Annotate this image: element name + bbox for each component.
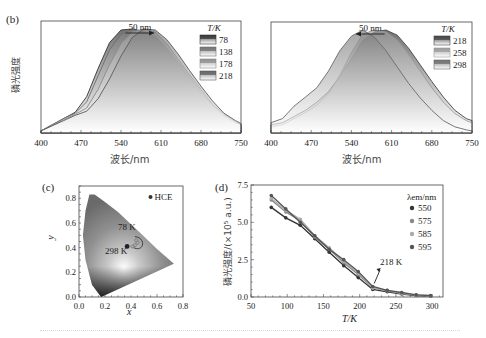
y-tick-label: 7.5: [237, 180, 248, 190]
c-x-axis-label: x: [127, 306, 131, 317]
data-point: [356, 270, 360, 274]
legend-label: 138: [219, 47, 233, 57]
data-point: [284, 207, 288, 211]
figure-canvas: 400470540610680750T/K7813817821850 nm 40…: [0, 0, 486, 338]
data-point: [342, 258, 346, 262]
legend-marker-icon: [410, 219, 414, 223]
x-tick-label: 400: [34, 138, 48, 148]
c-y-axis-label: y: [45, 235, 56, 239]
x-tick-label: 470: [304, 138, 318, 148]
legend-label: 178: [219, 59, 233, 69]
legend-label: 575: [418, 216, 432, 226]
panel-d-intensity: 501001502002503000.02.55.07.5λem/nm55057…: [237, 180, 443, 311]
legend-label: 78: [219, 35, 229, 45]
legend-label: 298: [453, 60, 467, 70]
panel-label-c: (c): [42, 181, 54, 193]
data-point: [269, 206, 273, 210]
x-tick-label: 540: [114, 138, 128, 148]
x-tick-label: 610: [154, 138, 168, 148]
x-tick-label: 150: [317, 301, 330, 311]
x-tick-label: 0.2: [100, 301, 111, 311]
x-tick-label: 680: [194, 138, 208, 148]
d-x-axis-label: T/K: [342, 313, 357, 324]
legend-label: 595: [418, 242, 432, 252]
y-tick-label: 0.8: [65, 193, 76, 203]
data-point: [313, 234, 317, 238]
x-tick-label: 250: [390, 301, 403, 311]
y-tick-label: 2.5: [237, 255, 248, 265]
x-tick-label: 610: [385, 138, 399, 148]
data-point: [371, 285, 375, 289]
y-tick-label: 5.0: [237, 217, 248, 227]
y-tick-label: 0.6: [65, 218, 76, 228]
x-tick-label: 50: [247, 301, 256, 311]
y-tick-label: 0.0: [65, 292, 76, 302]
panel-b-right: 400470540610680750T/K21825829850 nm: [264, 22, 479, 148]
data-point: [429, 294, 433, 298]
legend-label: 218: [453, 36, 467, 46]
y-tick-label: 0.0: [237, 292, 248, 302]
annotation-78K: 78 K: [118, 222, 136, 232]
data-point: [414, 293, 418, 297]
legend-title: λem/nm: [407, 192, 436, 202]
x-tick-label: 470: [74, 138, 88, 148]
legend-label: 585: [418, 229, 432, 239]
panel-label-b: (b): [6, 13, 19, 25]
panel-b-left: 400470540610680750T/K7813817821850 nm: [34, 21, 248, 148]
legend-marker-icon: [410, 245, 414, 249]
annotation-218K: 218 K: [380, 257, 403, 267]
hce-marker-icon: [149, 195, 153, 199]
x-tick-label: 0.0: [74, 301, 85, 311]
data-point: [385, 288, 389, 292]
panel-c-cie: 0.00.20.40.60.80.00.20.40.60.878 K298 KH…: [65, 186, 188, 311]
x-tick-label: 540: [345, 138, 359, 148]
data-point: [400, 291, 404, 295]
x-tick-label: 680: [425, 138, 439, 148]
b-left-x-axis-label: 波长/nm: [110, 151, 149, 166]
b-y-axis-label: 磷光强度: [9, 52, 22, 98]
legend-title: T/K: [207, 23, 222, 33]
y-tick-label: 0.4: [65, 243, 76, 253]
x-tick-label: 750: [465, 138, 479, 148]
x-tick-label: 0.8: [178, 301, 189, 311]
cropped-caption: [40, 330, 460, 332]
x-tick-label: 100: [281, 301, 294, 311]
annotation-298K: 298 K: [105, 246, 128, 256]
legend-label: 258: [453, 48, 467, 58]
b-right-x-axis-label: 波长/nm: [342, 151, 381, 166]
legend-title: T/K: [441, 24, 456, 34]
x-tick-label: 0.6: [152, 301, 163, 311]
x-tick-label: 300: [426, 301, 439, 311]
data-point: [269, 194, 273, 198]
x-tick-label: 750: [234, 138, 248, 148]
legend-label: 218: [219, 71, 233, 81]
shift-annotation: 50 nm: [359, 23, 382, 33]
x-tick-label: 400: [264, 138, 278, 148]
data-point: [298, 221, 302, 225]
legend-marker-icon: [410, 206, 414, 210]
data-point: [327, 247, 331, 251]
data-point: [284, 216, 288, 220]
d-y-axis-label: 磷光强度/(×10⁵ a.u.): [221, 187, 234, 297]
legend-marker-icon: [410, 232, 414, 236]
legend-label: 550: [418, 203, 432, 213]
x-tick-label: 200: [353, 301, 366, 311]
y-tick-label: 0.2: [65, 267, 76, 277]
shift-annotation: 50 nm: [128, 22, 151, 32]
legend-hce: HCE: [154, 192, 173, 202]
